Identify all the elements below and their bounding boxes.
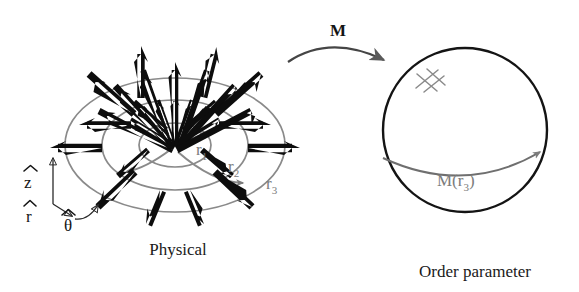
order-parameter-sphere-group: M(r3) xyxy=(383,48,547,212)
axis-label-z: z xyxy=(24,173,32,192)
axis-triad-labels: z r θ xyxy=(24,166,75,236)
r-hat-caret xyxy=(24,201,36,207)
axis-label-theta: θ xyxy=(64,216,72,235)
map-arrow-label: M xyxy=(330,21,346,40)
map-arrow-group: M xyxy=(288,21,384,62)
order-parameter-space-caption: Order parameter space xyxy=(370,224,579,292)
order-parameter-space-caption-line1: Order parameter xyxy=(370,262,579,281)
equator-label: M(r3) xyxy=(437,171,475,193)
figure-root: z r θ r1 r2 r3 M xyxy=(0,0,579,292)
preimage-hatch-mark xyxy=(416,69,445,92)
axis-label-r: r xyxy=(26,207,32,226)
z-hat-caret xyxy=(24,166,37,172)
radius-label-r1: r1 xyxy=(196,140,207,162)
vector-arrow-group-mid xyxy=(98,62,256,153)
physical-space-caption: Physical space xyxy=(108,202,248,292)
map-arrow xyxy=(288,47,384,62)
theta-axis-line xyxy=(75,205,98,219)
radial-vector-field xyxy=(50,45,300,226)
radius-label-r2: r2 xyxy=(228,157,239,179)
physical-space-caption-line1: Physical xyxy=(108,240,248,259)
